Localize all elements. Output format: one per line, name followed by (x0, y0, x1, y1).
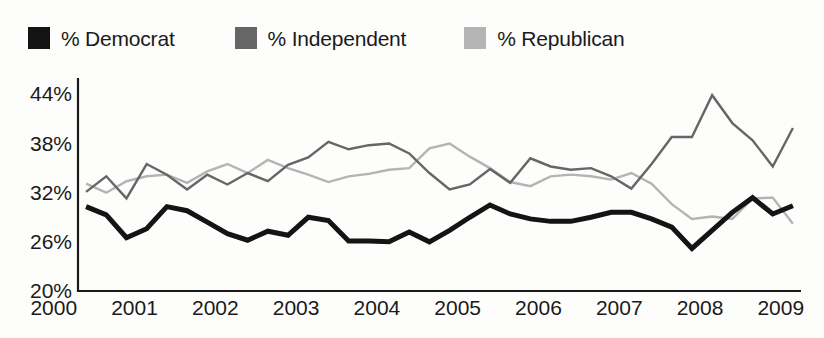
y-axis-tick-labels: 20%26%32%38%44% (6, 0, 72, 338)
y-tick-label: 32% (6, 182, 72, 203)
axis-lines (78, 78, 801, 291)
plot-area (0, 0, 824, 338)
series-line-democrat (86, 198, 793, 249)
x-tick-label: 2000 (30, 297, 77, 318)
x-tick-label: 2003 (273, 297, 320, 318)
x-tick-label: 2001 (111, 297, 158, 318)
x-tick-label: 2009 (757, 297, 804, 318)
x-axis-tick-labels: 2000200120022003200420052006200720082009 (0, 297, 824, 327)
x-tick-label: 2005 (434, 297, 481, 318)
x-tick-label: 2004 (354, 297, 401, 318)
x-tick-label: 2007 (596, 297, 643, 318)
line-chart: % Democrat % Independent % Republican 20… (0, 0, 824, 338)
y-tick-label: 38% (6, 133, 72, 154)
y-tick-label: 26% (6, 231, 72, 252)
y-tick-label: 44% (6, 83, 72, 104)
plot-svg (0, 0, 824, 338)
x-tick-label: 2002 (192, 297, 239, 318)
x-tick-label: 2006 (515, 297, 562, 318)
x-tick-label: 2008 (677, 297, 724, 318)
